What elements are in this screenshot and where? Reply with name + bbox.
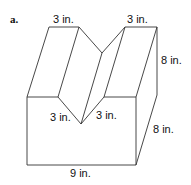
- dim-height: 8 in.: [161, 54, 182, 66]
- dim-top-left: 3 in.: [53, 13, 74, 25]
- dim-notch-right: 3 in.: [96, 109, 117, 121]
- prism-diagram: a. 3 in. 3 in. 8 in. 3 in. 3 in. 8 in. 9…: [0, 0, 191, 185]
- dim-notch-left: 3 in.: [50, 111, 71, 123]
- dim-width: 9 in.: [70, 167, 91, 179]
- part-label: a.: [10, 13, 19, 25]
- dim-depth: 8 in.: [153, 123, 174, 135]
- prism-edges: [27, 27, 157, 165]
- dim-top-right: 3 in.: [127, 13, 148, 25]
